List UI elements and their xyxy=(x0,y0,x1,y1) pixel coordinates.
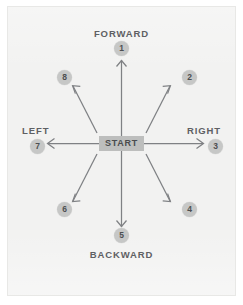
badge-8: 8 xyxy=(57,70,72,85)
arrow-forward-left xyxy=(73,86,97,133)
start-label: START xyxy=(99,136,144,151)
arrow-backward-right xyxy=(146,154,170,202)
label-backward: BACKWARD xyxy=(0,250,243,260)
badge-4: 4 xyxy=(182,202,197,217)
arrow-right xyxy=(144,139,204,149)
arrow-backward-left xyxy=(73,154,97,202)
badge-3: 3 xyxy=(208,139,223,154)
arrow-forward xyxy=(117,60,127,136)
badge-5: 5 xyxy=(114,228,129,243)
label-right: RIGHT xyxy=(187,126,221,136)
badge-2: 2 xyxy=(182,70,197,85)
label-left: LEFT xyxy=(22,126,49,136)
label-forward: FORWARD xyxy=(0,29,243,39)
badge-7: 7 xyxy=(30,139,45,154)
arrow-forward-right xyxy=(146,86,170,133)
badge-6: 6 xyxy=(57,202,72,217)
direction-diagram: FORWARD BACKWARD LEFT RIGHT 1 2 3 4 5 6 … xyxy=(0,0,243,305)
badge-1: 1 xyxy=(114,41,129,56)
arrow-backward xyxy=(117,151,127,227)
arrow-left xyxy=(48,139,100,149)
